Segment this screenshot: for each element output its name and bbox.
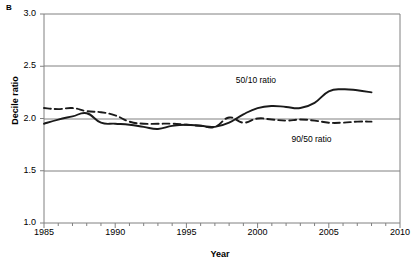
x-tick-label-1995: 1995 [166, 228, 206, 237]
series-annotation-90-50-ratio: 90/50 ratio [291, 135, 331, 144]
grid-lines [44, 14, 400, 223]
x-tick-label-1985: 1985 [24, 228, 64, 237]
y-tick-label-1.0: 1.0 [10, 218, 36, 227]
series-line-50-10-ratio [44, 89, 372, 129]
x-tick-label-2005: 2005 [309, 228, 349, 237]
chart-figure: B Decile ratio Year 1.01.52.02.53.0 1985… [0, 0, 414, 268]
x-tick-label-1990: 1990 [95, 228, 135, 237]
y-tick-label-2.0: 2.0 [10, 114, 36, 123]
y-tick-label-2.5: 2.5 [10, 61, 36, 70]
x-tick-label-2000: 2000 [238, 228, 278, 237]
series-annotation-50-10-ratio: 50/10 ratio [236, 76, 276, 85]
y-tick-label-1.5: 1.5 [10, 166, 36, 175]
y-tick-label-3.0: 3.0 [10, 9, 36, 18]
x-tick-label-2010: 2010 [380, 228, 414, 237]
y-axis-ticks [40, 14, 44, 223]
